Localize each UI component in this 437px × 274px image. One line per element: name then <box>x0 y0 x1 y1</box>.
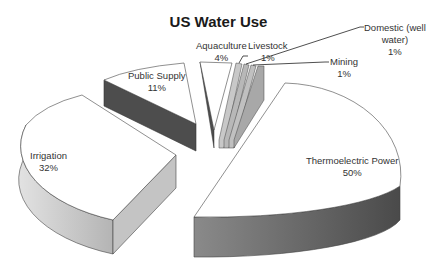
pie-chart: US Water Use <box>0 0 437 274</box>
label-thermoelectric: Thermoelectric Power50% <box>306 155 398 179</box>
label-domestic: Domestic (wellwater)1% <box>364 22 426 58</box>
label-mining: Mining1% <box>330 56 358 80</box>
label-aquaculture: Aquaculture4% <box>196 40 247 64</box>
label-public-supply: Public Supply11% <box>128 70 186 94</box>
label-irrigation: Irrigation32% <box>30 150 67 174</box>
label-livestock: Livestock1% <box>248 40 288 64</box>
